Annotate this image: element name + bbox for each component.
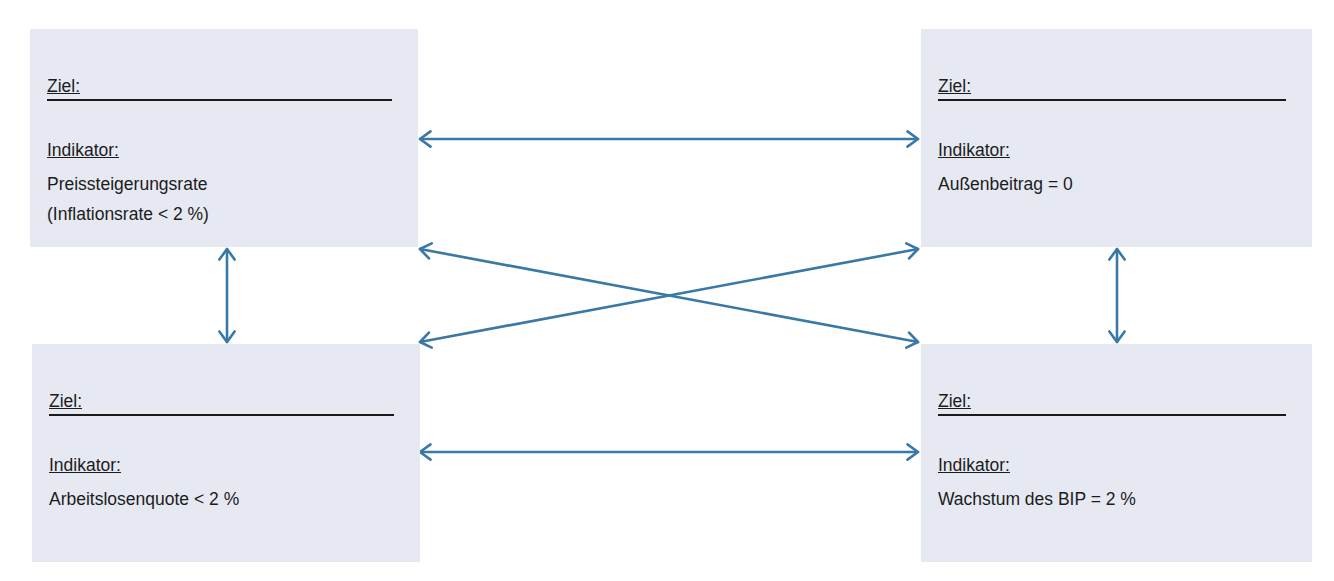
goal-label: Ziel: [938, 76, 971, 96]
arrowhead-icon [1109, 331, 1124, 342]
goal-box-growth: Ziel: Indikator: Wachstum des BIP = 2 % [921, 344, 1312, 562]
indicator-value: Arbeitslosenquote < 2 % [49, 484, 239, 514]
arrowhead-icon [907, 131, 918, 146]
arrowhead-icon [219, 249, 234, 260]
arrowhead-icon [420, 333, 432, 348]
indicator-label: Indikator: [938, 454, 1010, 476]
arrowhead-icon [420, 243, 432, 258]
arrow-tl-br [420, 243, 918, 347]
goal-box-employment: Ziel: Indikator: Arbeitslosenquote < 2 % [32, 344, 420, 562]
indicator-label: Indikator: [938, 139, 1010, 161]
indicator-value: Außenbeitrag = 0 [938, 169, 1073, 199]
indicator-label: Indikator: [49, 454, 121, 476]
arrowhead-icon [906, 243, 918, 258]
goal-label: Ziel: [49, 391, 82, 411]
indicator-value: Wachstum des BIP = 2 % [938, 484, 1136, 514]
goal-field[interactable]: Ziel: [938, 73, 1286, 101]
goal-box-price-stability: Ziel: Indikator: Preissteigerungsrate (I… [30, 29, 418, 247]
arrowhead-icon [219, 331, 234, 342]
arrowhead-icon [906, 333, 918, 348]
goal-label: Ziel: [47, 76, 80, 96]
arrow-tl-tr [420, 131, 918, 146]
arrow-bl-br [420, 444, 918, 459]
indicator-value: Preissteigerungsrate (Inflationsrate < 2… [47, 169, 209, 229]
goal-box-external-balance: Ziel: Indikator: Außenbeitrag = 0 [921, 29, 1312, 247]
goal-label: Ziel: [938, 391, 971, 411]
arrowhead-icon [420, 444, 431, 459]
arrowhead-icon [907, 444, 918, 459]
arrowhead-icon [1109, 249, 1124, 260]
indicator-label: Indikator: [47, 139, 119, 161]
arrow-bl-tr [420, 243, 918, 347]
goal-field[interactable]: Ziel: [47, 73, 392, 101]
arrow-tl-bl [219, 249, 234, 342]
arrowhead-icon [420, 131, 431, 146]
goal-field[interactable]: Ziel: [49, 388, 394, 416]
arrow-tr-br [1109, 249, 1124, 342]
goal-field[interactable]: Ziel: [938, 388, 1286, 416]
